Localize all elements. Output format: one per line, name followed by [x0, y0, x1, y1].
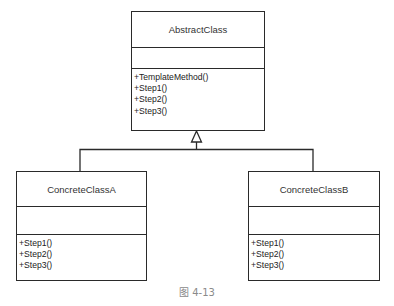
- operation: +Step3(): [251, 260, 379, 271]
- attributes-section: [17, 207, 146, 235]
- class-name: AbstractClass: [132, 12, 264, 48]
- operations-section: +Step1() +Step2() +Step3(): [249, 235, 379, 272]
- operations-section: +Step1() +Step2() +Step3(): [17, 235, 146, 272]
- concrete-class-b-box: ConcreteClassB +Step1() +Step2() +Step3(…: [248, 171, 380, 281]
- attributes-section: [249, 207, 379, 235]
- operation: +Step2(): [134, 94, 264, 105]
- operations-section: +TemplateMethod() +Step1() +Step2() +Ste…: [132, 69, 264, 117]
- operation: +Step1(): [19, 238, 146, 249]
- attributes-section: [132, 48, 264, 69]
- operation: +Step3(): [134, 106, 264, 117]
- operation: +Step1(): [134, 83, 264, 94]
- operation: +TemplateMethod(): [134, 72, 264, 83]
- abstract-class-box: AbstractClass +TemplateMethod() +Step1()…: [131, 11, 265, 131]
- class-name: ConcreteClassA: [17, 172, 146, 207]
- operation: +Step2(): [19, 249, 146, 260]
- class-name: ConcreteClassB: [249, 172, 379, 207]
- operation: +Step1(): [251, 238, 379, 249]
- figure-caption: 图 4-13: [0, 284, 394, 299]
- operation: +Step3(): [19, 260, 146, 271]
- concrete-class-a-box: ConcreteClassA +Step1() +Step2() +Step3(…: [16, 171, 147, 281]
- inheritance-arrow-icon: [192, 131, 202, 142]
- operation: +Step2(): [251, 249, 379, 260]
